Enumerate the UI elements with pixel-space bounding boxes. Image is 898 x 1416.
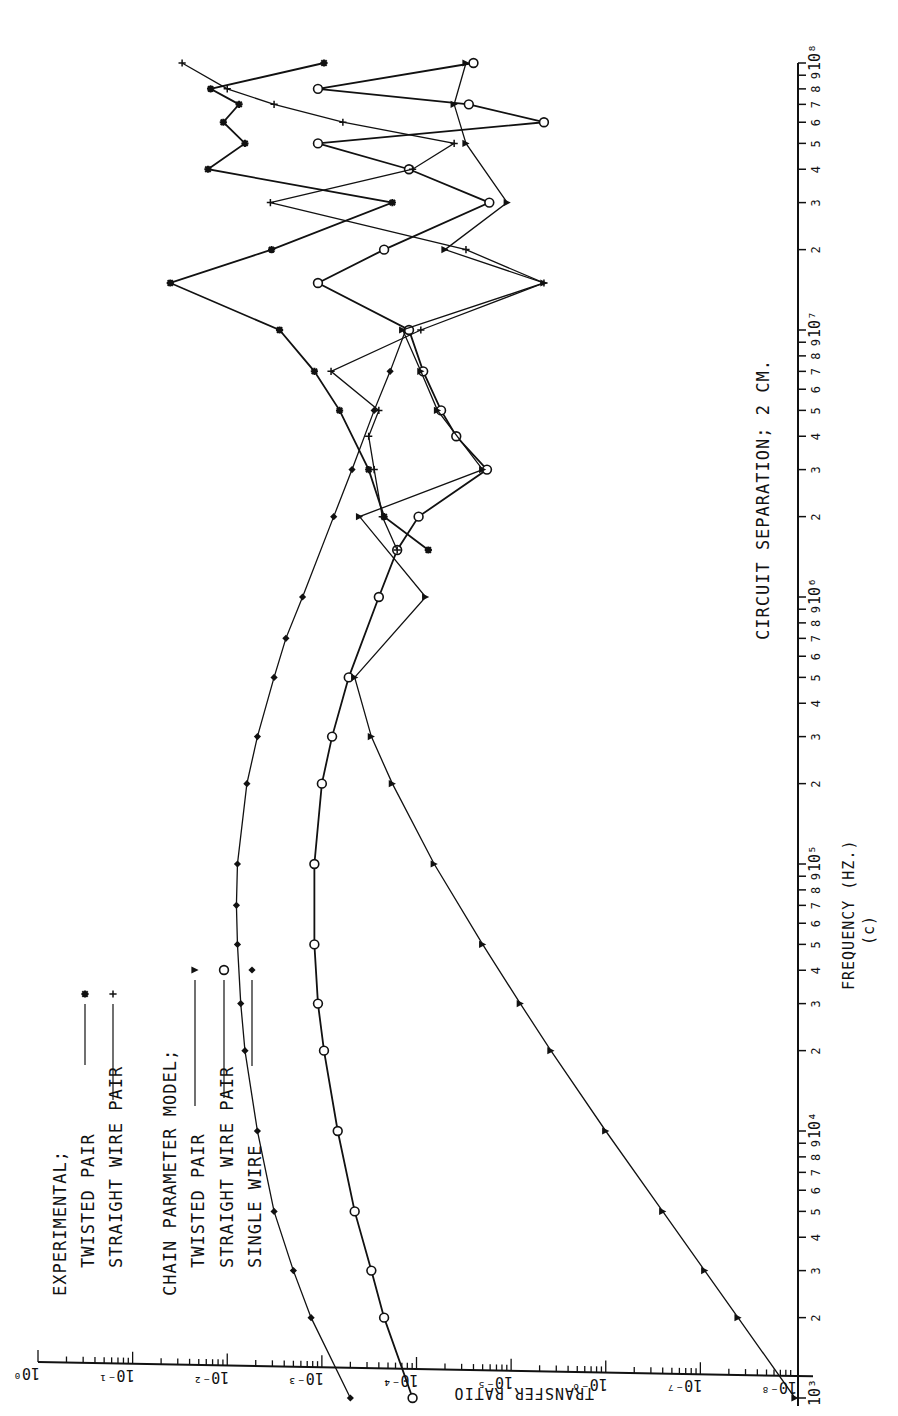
- legend-item-model-twisted-pair: TWISTED PAIR: [188, 1133, 208, 1268]
- frequency-tick-label: 10⁷: [806, 311, 824, 338]
- ratio-tick-label: 10⁻¹: [99, 1366, 135, 1384]
- frequency-tick-label: 8: [809, 620, 823, 627]
- figure-caption: (c): [860, 915, 878, 945]
- frequency-tick-label: 10³: [806, 1379, 824, 1406]
- frequency-tick-label: 9: [809, 873, 823, 880]
- y-axis-label: TRANSFER RATIO: [454, 1384, 594, 1402]
- series-asterisk: [167, 59, 432, 553]
- frequency-tick-label: 6: [809, 653, 823, 660]
- ratio-tick-label: 10⁰: [13, 1364, 40, 1382]
- series-circle: [310, 59, 548, 1403]
- frequency-tick-label: 3: [809, 199, 823, 206]
- frequency-tick-label: 5: [809, 1208, 823, 1215]
- frequency-tick-label: 3: [809, 1000, 823, 1007]
- frequency-tick-label: 7: [809, 902, 823, 909]
- frequency-tick-label: 10⁵: [806, 845, 824, 872]
- frequency-tick-label: 2: [809, 1314, 823, 1321]
- frequency-tick-label: 7: [809, 368, 823, 375]
- legend-group1-title: EXPERIMENTAL;: [50, 1150, 70, 1296]
- frequency-tick-label: 10⁸: [806, 44, 824, 71]
- legend-item-exp-straight-wire-pair: STRAIGHT WIRE PAIR: [106, 1066, 126, 1268]
- frequency-tick-label: 9: [809, 606, 823, 613]
- frequency-tick-label: 2: [809, 780, 823, 787]
- ratio-tick-label: 10⁻⁷: [666, 1376, 702, 1394]
- frequency-tick-label: 10⁶: [806, 578, 824, 605]
- ratio-axis-line: [38, 1362, 813, 1376]
- circuit-separation-annotation: CIRCUIT SEPARATION; 2 CM.: [753, 359, 773, 640]
- frequency-tick-label: 4: [809, 433, 823, 440]
- frequency-tick-label: 7: [809, 101, 823, 108]
- frequency-tick-label: 6: [809, 920, 823, 927]
- frequency-tick-label: 5: [809, 140, 823, 147]
- series-triangle: [351, 59, 799, 1401]
- frequency-tick-label: 8: [809, 1154, 823, 1161]
- frequency-tick-label: 3: [809, 466, 823, 473]
- frequency-tick-label: 4: [809, 700, 823, 707]
- frequency-tick-label: 5: [809, 674, 823, 681]
- frequency-tick-label: 2: [809, 513, 823, 520]
- x-axis-label: FREQUENCY (HZ.): [840, 840, 858, 990]
- frequency-tick-label: 2: [809, 1047, 823, 1054]
- frequency-tick-label: 9: [809, 1140, 823, 1147]
- legend-item-model-single-wire: SINGLE WIRE: [245, 1144, 265, 1268]
- frequency-tick-label: 7: [809, 635, 823, 642]
- frequency-tick-label: 8: [809, 86, 823, 93]
- chart-figure: 10³2345678910⁴2345678910⁵2345678910⁶2345…: [0, 0, 898, 1416]
- frequency-tick-label: 9: [809, 72, 823, 79]
- frequency-tick-label: 4: [809, 166, 823, 173]
- frequency-tick-label: 2: [809, 246, 823, 253]
- frequency-tick-label: 4: [809, 1234, 823, 1241]
- plot-area: 10³2345678910⁴2345678910⁵2345678910⁶2345…: [0, 0, 898, 1416]
- frequency-tick-label: 8: [809, 353, 823, 360]
- frequency-tick-label: 6: [809, 1187, 823, 1194]
- frequency-tick-label: 6: [809, 386, 823, 393]
- frequency-tick-label: 8: [809, 887, 823, 894]
- frequency-tick-label: 6: [809, 119, 823, 126]
- frequency-tick-label: 4: [809, 967, 823, 974]
- legend-group2-title: CHAIN PARAMETER MODEL;: [160, 1049, 180, 1296]
- frequency-tick-label: 7: [809, 1169, 823, 1176]
- ratio-tick-label: 10⁻⁴: [382, 1371, 418, 1389]
- frequency-tick-label: 5: [809, 941, 823, 948]
- frequency-tick-label: 3: [809, 733, 823, 740]
- axes: 10³2345678910⁴2345678910⁵2345678910⁶2345…: [13, 44, 824, 1406]
- ratio-tick-label: 10⁻²: [193, 1368, 229, 1386]
- frequency-tick-label: 3: [809, 1267, 823, 1274]
- legend-item-exp-twisted-pair: TWISTED PAIR: [78, 1133, 98, 1268]
- ratio-tick-label: 10⁻³: [288, 1369, 324, 1387]
- frequency-tick-label: 9: [809, 339, 823, 346]
- legend-item-model-straight-wire-pair: STRAIGHT WIRE PAIR: [217, 1066, 237, 1268]
- frequency-tick-label: 5: [809, 407, 823, 414]
- frequency-tick-label: 10⁴: [806, 1112, 824, 1139]
